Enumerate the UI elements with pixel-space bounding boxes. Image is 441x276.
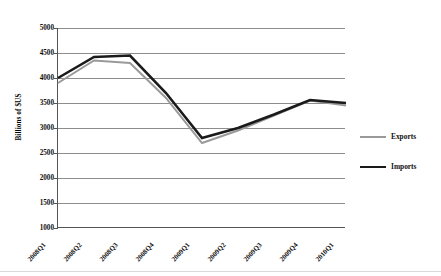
x-tick-label: 2009Q3 [242, 241, 264, 263]
x-tick-label: 2008Q4 [134, 241, 156, 263]
bottom-divider [0, 271, 441, 272]
y-axis-tick-labels: 500045004000350030002500200015001000 [26, 24, 54, 232]
line-chart: Billions of $US 500045004000350030002500… [0, 0, 441, 276]
x-tick-label: 2008Q3 [98, 241, 120, 263]
legend-item-exports[interactable]: Exports [360, 128, 440, 145]
y-tick-label: 1000 [26, 224, 54, 232]
legend-label: Exports [391, 132, 416, 141]
legend-item-imports[interactable]: Imports [360, 158, 440, 175]
y-tick-label: 1500 [26, 199, 54, 207]
y-tick-label: 2000 [26, 174, 54, 182]
y-axis-title: Billions of $US [15, 57, 23, 177]
x-tick-label: 2009Q2 [206, 241, 228, 263]
series-line-imports [58, 56, 346, 139]
x-tick-label: 2010Q1 [314, 241, 336, 263]
legend-label: Imports [391, 162, 416, 171]
x-tick-label: 2008Q2 [62, 241, 84, 263]
y-tick-label: 2500 [26, 149, 54, 157]
legend-swatch-icon [360, 166, 386, 168]
y-tick-label: 3000 [26, 124, 54, 132]
y-tick-label: 3500 [26, 99, 54, 107]
y-tick-label: 4000 [26, 74, 54, 82]
y-tick-label: 4500 [26, 49, 54, 57]
x-tick-label: 2009Q1 [170, 241, 192, 263]
x-tick-label: 2008Q1 [26, 241, 48, 263]
x-axis-tick-labels: 2008Q12008Q22008Q32008Q42009Q12009Q22009… [57, 228, 345, 274]
chart-legend: ExportsImports [360, 128, 440, 188]
plot-area [57, 28, 345, 228]
y-tick-label: 5000 [26, 24, 54, 32]
series-lines [58, 28, 346, 228]
legend-swatch-icon [360, 136, 386, 138]
x-tick-label: 2009Q4 [278, 241, 300, 263]
